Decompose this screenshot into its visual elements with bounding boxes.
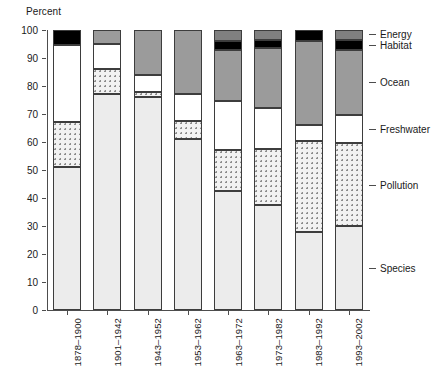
legend-label: Freshwater xyxy=(380,124,430,135)
legend-leader-line xyxy=(369,129,376,130)
legend-leader-line xyxy=(369,82,376,83)
legend-leader-line xyxy=(369,34,376,35)
legend-leader-line xyxy=(369,45,376,46)
legend-leader-line xyxy=(369,268,376,269)
chart-legend: EnergyHabitatOceanFreshwaterPollutionSpe… xyxy=(0,0,436,377)
legend-label: Ocean xyxy=(380,76,409,87)
legend-label: Species xyxy=(380,263,416,274)
legend-label: Habitat xyxy=(380,39,412,50)
legend-label: Energy xyxy=(380,29,412,40)
legend-label: Pollution xyxy=(380,180,418,191)
legend-leader-line xyxy=(369,185,376,186)
stacked-bar-chart: Percent 0102030405060708090100 1878–1900… xyxy=(0,0,436,377)
